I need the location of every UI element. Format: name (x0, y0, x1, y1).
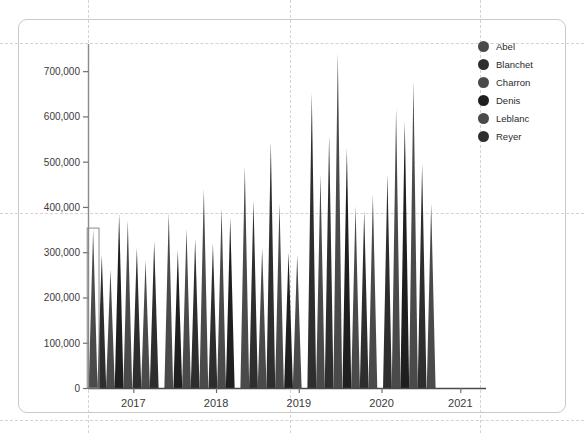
guide-horizontal-bottom (0, 420, 584, 421)
y-axis-tick-label: 500,000 (18, 156, 80, 167)
y-axis-tick-label: 600,000 (18, 111, 80, 122)
x-axis-tick-label: 2021 (448, 397, 472, 409)
legend-item[interactable]: Denis (478, 92, 568, 109)
legend-swatch-icon (478, 113, 489, 124)
legend-swatch-icon (478, 131, 489, 142)
legend-swatch-icon (478, 59, 489, 70)
x-axis-tick-label: 2018 (204, 397, 228, 409)
legend-item[interactable]: Reyer (478, 128, 568, 145)
legend-item[interactable]: Leblanc (478, 110, 568, 127)
legend-item-label: Abel (496, 41, 515, 52)
screenshot-root: 0100,000200,000300,000400,000500,000600,… (0, 0, 584, 433)
legend-item-label: Reyer (496, 131, 521, 142)
legend-item-label: Blanchet (496, 59, 533, 70)
y-axis-tick-label: 100,000 (18, 337, 80, 348)
legend-swatch-icon (478, 41, 489, 52)
y-axis-tick-label: 200,000 (18, 292, 80, 303)
legend-item-label: Denis (496, 95, 520, 106)
x-axis-tick-label: 2020 (369, 397, 393, 409)
chart-legend[interactable]: AbelBlanchetCharronDenisLeblancReyer (478, 38, 568, 146)
y-axis-tick-label: 0 (18, 383, 80, 394)
y-axis-tick-label: 300,000 (18, 247, 80, 258)
legend-item[interactable]: Abel (478, 38, 568, 55)
legend-item-label: Leblanc (496, 113, 529, 124)
legend-item-label: Charron (496, 77, 530, 88)
x-axis-tick-label: 2019 (287, 397, 311, 409)
legend-item[interactable]: Blanchet (478, 56, 568, 73)
y-axis-tick-label: 700,000 (18, 66, 80, 77)
legend-item[interactable]: Charron (478, 74, 568, 91)
legend-swatch-icon (478, 77, 489, 88)
y-axis-tick-label: 400,000 (18, 201, 80, 212)
x-axis-tick-label: 2017 (121, 397, 145, 409)
legend-swatch-icon (478, 95, 489, 106)
